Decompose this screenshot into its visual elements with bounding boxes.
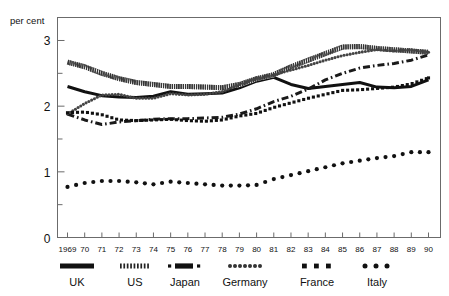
y-axis-ticks: 0123 (44, 34, 65, 245)
x-tick-label: 87 (372, 245, 381, 254)
legend-label: UK (69, 276, 85, 288)
x-tick-label: 90 (424, 245, 433, 254)
y-tick-label: 0 (44, 232, 51, 246)
legend-label: US (127, 276, 142, 288)
x-tick-label: 73 (132, 245, 141, 254)
x-tick-label: 79 (235, 245, 244, 254)
y-axis-label: per cent (10, 15, 45, 26)
series-layer (65, 46, 430, 189)
x-tick-label: 77 (201, 245, 210, 254)
x-tick-label: 1969 (59, 245, 77, 254)
legend-label: France (300, 276, 334, 288)
x-tick-label: 88 (390, 245, 399, 254)
x-tick-label: 86 (355, 245, 364, 254)
x-tick-label: 81 (269, 245, 278, 254)
x-tick-label: 71 (97, 245, 106, 254)
y-tick-label: 3 (44, 34, 51, 48)
line-chart: per cent 0123 19697071727374757677787980… (0, 0, 449, 296)
x-axis-ticks: 1969707172737475767778798081828384858687… (59, 233, 434, 254)
legend-item-germany[interactable]: Germany (222, 264, 268, 288)
legend-item-uk[interactable]: UK (60, 264, 94, 289)
series-italy (65, 150, 430, 189)
series-japan (68, 55, 429, 125)
legend-label: Italy (367, 276, 388, 288)
legend-item-us[interactable]: US (120, 264, 149, 289)
legend-item-japan[interactable]: Japan (168, 263, 200, 288)
legend-label: Germany (222, 276, 268, 288)
x-tick-label: 76 (183, 245, 192, 254)
legend-item-italy[interactable]: Italy (363, 264, 390, 289)
y-tick-label: 2 (44, 100, 51, 114)
x-tick-label: 84 (321, 245, 330, 254)
legend-label: Japan (170, 276, 200, 288)
y-tick-label: 1 (44, 166, 51, 180)
x-tick-label: 80 (252, 245, 261, 254)
x-tick-label: 82 (287, 245, 296, 254)
x-tick-label: 70 (80, 245, 89, 254)
series-germany (66, 48, 430, 115)
x-tick-label: 72 (115, 245, 124, 254)
legend-item-france[interactable]: France (300, 264, 334, 288)
chart-legend: UKUSJapanGermanyFranceItaly (60, 263, 390, 288)
chart-container: per cent 0123 19697071727374757677787980… (0, 0, 449, 296)
x-tick-label: 74 (149, 245, 158, 254)
x-tick-label: 78 (218, 245, 227, 254)
x-tick-label: 83 (304, 245, 313, 254)
x-tick-label: 75 (166, 245, 175, 254)
x-tick-label: 85 (338, 245, 347, 254)
x-tick-label: 89 (407, 245, 416, 254)
